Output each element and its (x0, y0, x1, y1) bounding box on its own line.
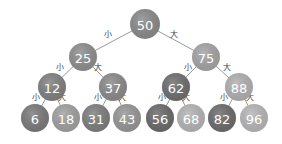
tree-node-88: 88 (225, 73, 253, 101)
node-value: 75 (198, 51, 215, 66)
node-value: 82 (214, 112, 231, 127)
node-value: 62 (168, 81, 185, 96)
edge-label-small: 小 (184, 63, 192, 72)
tree-node-18: 18 (52, 104, 80, 132)
node-value: 18 (58, 112, 75, 127)
node-value: 88 (231, 81, 248, 96)
tree-node-82: 82 (208, 104, 236, 132)
tree-node-37: 37 (99, 73, 127, 101)
tree-node-43: 43 (113, 104, 141, 132)
tree-node-31: 31 (82, 104, 110, 132)
node-value: 96 (246, 112, 263, 127)
edge-label-small: 小 (220, 93, 228, 102)
tree-node-50: 50 (130, 9, 160, 39)
edge-label-small: 小 (32, 93, 40, 102)
binary-search-tree-diagram: 小大小大小大小大小大小大小大 5025751237628861831435668… (0, 0, 282, 144)
node-value: 68 (183, 112, 200, 127)
tree-node-75: 75 (192, 43, 220, 71)
edge-label-small: 小 (56, 63, 64, 72)
tree-node-56: 56 (146, 104, 174, 132)
tree-node-96: 96 (240, 104, 268, 132)
tree-node-12: 12 (38, 73, 66, 101)
tree-node-62: 62 (162, 73, 190, 101)
tree-node-6: 6 (21, 104, 49, 132)
tree-node-68: 68 (177, 104, 205, 132)
node-value: 6 (31, 112, 39, 127)
node-value: 31 (88, 112, 105, 127)
edge-label-small: 小 (94, 93, 102, 102)
node-value: 12 (44, 81, 61, 96)
tree-node-25: 25 (69, 43, 97, 71)
node-value: 37 (105, 81, 122, 96)
edge-label-large: 大 (170, 29, 178, 39)
node-value: 56 (152, 112, 169, 127)
node-value: 43 (119, 112, 136, 127)
edge-label-small: 小 (104, 30, 112, 39)
node-value: 50 (137, 18, 154, 33)
edge-label-large: 大 (223, 62, 231, 72)
node-value: 25 (75, 51, 92, 66)
